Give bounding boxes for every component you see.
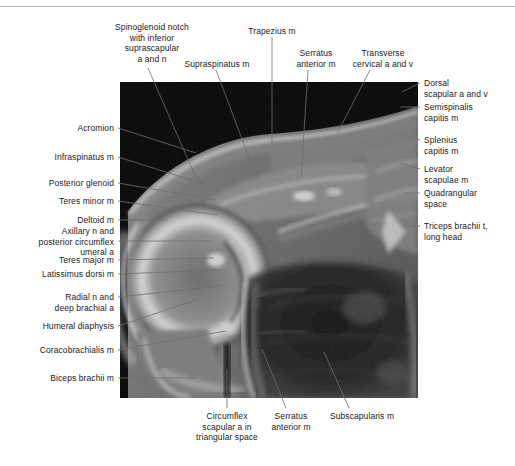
top-divider-rule xyxy=(0,6,515,7)
label-serratus-anterior-bottom: Serratus anterior m xyxy=(258,411,324,432)
label-humeral-diaphysis: Humeral diaphysis xyxy=(10,321,114,332)
label-coracobrachialis: Coracobrachialis m xyxy=(10,345,114,356)
label-splenius-capitis: Splenius capitis m xyxy=(424,135,512,156)
label-biceps-brachii: Biceps brachii m xyxy=(10,373,114,384)
label-levator-scapulae: Levator scapulae m xyxy=(424,164,512,185)
label-semispinalis-capitis: Semispinalis capitis m xyxy=(424,102,512,123)
label-deltoid: Deltoid m xyxy=(10,215,114,226)
label-trapezius: Trapezius m xyxy=(237,26,307,37)
label-circumflex-scapular-artery: Circumflex scapular a in triangular spac… xyxy=(186,411,268,443)
label-axillary-nerve-circumflex: Axillary n and posterior circumflex umer… xyxy=(10,226,114,258)
label-radial-nerve-deep-brachial: Radial n and deep brachial a xyxy=(10,292,114,313)
label-supraspinatus: Supraspinatus m xyxy=(172,59,262,70)
label-latissimus-dorsi: Latissimus dorsi m xyxy=(10,269,114,280)
label-dorsal-scapular-vessels: Dorsal scapular a and v xyxy=(424,78,512,99)
label-transverse-cervical-vessels: Transverse cervical a and v xyxy=(340,48,426,69)
label-teres-major: Teres major m xyxy=(10,255,114,266)
label-infraspinatus: Infraspinatus m xyxy=(10,152,114,163)
label-triceps-brachii-long-head: Triceps brachii t, long head xyxy=(424,221,514,242)
mri-image xyxy=(120,82,418,398)
anatomical-figure: Spinoglenoid notch with inferior suprasc… xyxy=(0,0,515,466)
label-serratus-anterior-top: Serratus anterior m xyxy=(286,48,346,69)
label-posterior-glenoid: Posterior glenoid xyxy=(10,178,114,189)
mri-image-graphic xyxy=(120,82,418,398)
label-quadrangular-space: Quadrangular space xyxy=(424,188,512,209)
label-acromion: Acromion xyxy=(10,123,114,134)
label-spinoglenoid-notch: Spinoglenoid notch with inferior suprasc… xyxy=(92,22,212,64)
label-teres-minor: Teres minor m xyxy=(10,196,114,207)
label-subscapularis: Subscapularis m xyxy=(316,411,408,422)
